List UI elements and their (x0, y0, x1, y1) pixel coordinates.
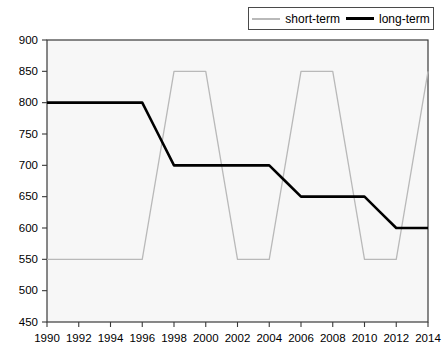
y-tick-label: 850 (19, 65, 38, 77)
x-tick-label: 2000 (193, 332, 219, 344)
x-tick-label: 1996 (129, 332, 155, 344)
x-axis-ticks (47, 322, 428, 327)
x-tick-label: 2008 (320, 332, 346, 344)
x-tick-label: 2010 (352, 332, 378, 344)
x-tick-label: 1992 (66, 332, 92, 344)
x-tick-label: 2012 (383, 332, 409, 344)
x-tick-label: 1990 (34, 332, 60, 344)
x-tick-label: 2002 (225, 332, 251, 344)
y-tick-label: 550 (19, 253, 38, 265)
y-tick-label: 450 (19, 316, 38, 328)
chart-figure: short-term long-term 4505005506006507007… (0, 0, 448, 357)
y-axis-labels: 450500550600650700750800850900 (19, 34, 38, 328)
x-tick-label: 1998 (161, 332, 187, 344)
x-tick-label: 1994 (98, 332, 124, 344)
x-tick-label: 2014 (415, 332, 441, 344)
y-tick-label: 700 (19, 159, 38, 171)
y-tick-label: 750 (19, 128, 38, 140)
plot-area: 450500550600650700750800850900 199019921… (0, 0, 448, 357)
x-tick-label: 2004 (256, 332, 282, 344)
y-axis-ticks (42, 40, 47, 322)
y-tick-label: 650 (19, 190, 38, 202)
plot-background (47, 40, 428, 322)
y-tick-label: 800 (19, 96, 38, 108)
y-tick-label: 900 (19, 34, 38, 46)
y-tick-label: 500 (19, 284, 38, 296)
x-axis-labels: 1990199219941996199820002002200420062008… (34, 332, 441, 344)
x-tick-label: 2006 (288, 332, 314, 344)
y-tick-label: 600 (19, 222, 38, 234)
